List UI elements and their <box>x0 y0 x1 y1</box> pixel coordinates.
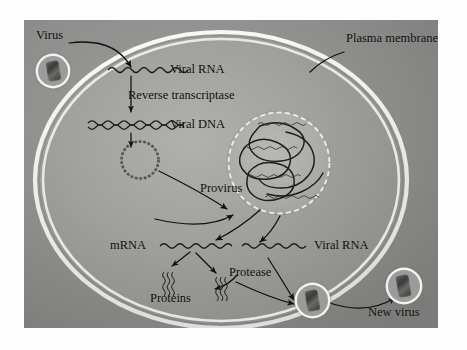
label-plasma-membrane: Plasma membrane <box>346 32 438 45</box>
released-virus-particle-icon <box>388 270 420 302</box>
virus-core <box>45 60 61 82</box>
label-new-virus: New virus <box>368 306 420 319</box>
virus-core <box>304 289 320 312</box>
label-virus: Virus <box>36 29 63 42</box>
label-proteins: Proteins <box>150 292 191 305</box>
label-viral-rna-top: Viral RNA <box>170 63 224 76</box>
label-viral-rna-bottom: Viral RNA <box>314 239 368 252</box>
label-provirus: Provirus <box>200 182 242 195</box>
label-mrna: mRNA <box>110 239 146 252</box>
label-viral-dna: Viral DNA <box>170 118 225 131</box>
budding-virus-particle-icon <box>297 285 328 316</box>
host-cell <box>35 32 407 328</box>
incoming-virus-particle-icon <box>38 56 68 86</box>
label-reverse-transcriptase: Reverse transcriptase <box>128 89 235 102</box>
nucleus <box>227 111 331 215</box>
label-protease: Protease <box>229 266 271 279</box>
diagram-figure: Virus Plasma membrane Viral RNA Reverse … <box>0 0 467 350</box>
diagram-panel: Virus Plasma membrane Viral RNA Reverse … <box>24 20 438 328</box>
virus-core <box>396 274 413 298</box>
diagram-canvas <box>24 20 438 328</box>
